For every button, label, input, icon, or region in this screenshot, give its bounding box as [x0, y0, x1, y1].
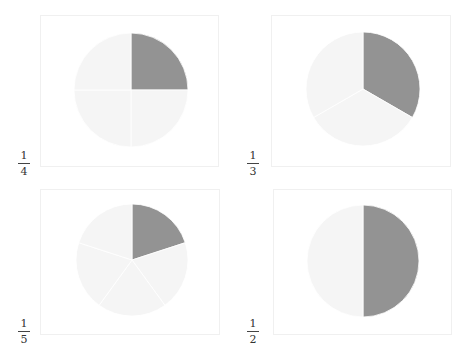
- fraction-denominator: 5: [17, 334, 31, 345]
- fraction-bar: [18, 331, 30, 332]
- pie-slice-highlighted: [363, 205, 419, 317]
- fraction-numerator: 1: [246, 150, 260, 161]
- pie-slice-rest-1: [131, 90, 188, 147]
- pie-chart-half: [307, 205, 419, 317]
- fraction-numerator: 1: [17, 318, 31, 329]
- fraction-bar: [247, 163, 259, 164]
- fraction-label-quarter: 1 4: [17, 150, 31, 177]
- fraction-numerator: 1: [246, 318, 260, 329]
- pie-slice-rest-1: [307, 205, 363, 317]
- pie-chart-third: [306, 32, 420, 146]
- pie-slice-rest-2: [74, 90, 131, 147]
- pie-chart-fifth: [76, 204, 188, 316]
- fraction-numerator: 1: [17, 150, 31, 161]
- fraction-label-half: 1 2: [246, 318, 260, 345]
- pie-slice-highlighted: [131, 33, 188, 90]
- fraction-bar: [18, 163, 30, 164]
- fraction-label-fifth: 1 5: [17, 318, 31, 345]
- fraction-denominator: 4: [17, 166, 31, 177]
- fraction-label-third: 1 3: [246, 150, 260, 177]
- pie-slice-rest-3: [74, 33, 131, 90]
- fraction-denominator: 2: [246, 334, 260, 345]
- fraction-bar: [247, 331, 259, 332]
- pie-chart-quarter: [74, 33, 188, 147]
- fraction-denominator: 3: [246, 166, 260, 177]
